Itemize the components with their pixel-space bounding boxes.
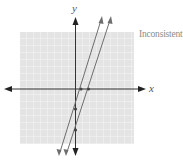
point [74, 107, 77, 110]
annotation-label: Inconsistent [139, 29, 183, 39]
point [87, 87, 90, 90]
point [79, 87, 82, 90]
arrow-icon [99, 16, 104, 24]
arrow-icon [64, 149, 69, 156]
x-axis-right-arrow-icon [138, 86, 146, 92]
arrow-icon [108, 16, 113, 24]
y-axis-label: y [72, 2, 77, 14]
grid-background [20, 32, 134, 144]
coordinate-plane [0, 0, 183, 166]
arrow-icon [57, 149, 62, 156]
point [74, 128, 77, 131]
y-axis-down-arrow-icon [73, 148, 79, 156]
x-axis-left-arrow-icon [4, 86, 12, 92]
y-axis-up-arrow-icon [73, 17, 79, 25]
x-axis-label: x [149, 82, 154, 94]
